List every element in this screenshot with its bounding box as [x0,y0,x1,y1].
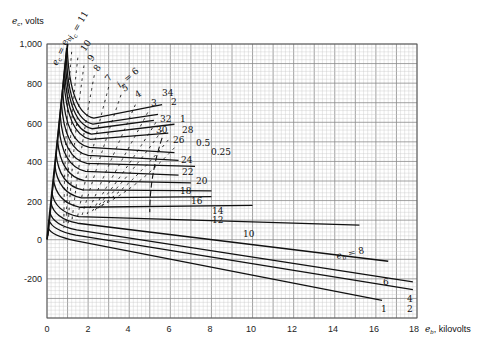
y-tick: 1,000 [19,39,42,49]
x-tick: 0 [44,324,49,334]
tube-characteristic-chart: 1,000 800 600 400 200 0 -200 0 2 4 6 8 1… [0,0,490,346]
ib-label: 26 [173,135,185,145]
ic-label: 0.25 [211,147,231,157]
ic-label: 1 [180,114,186,124]
ib-label: 10 [243,229,255,239]
ic-label: 5 [120,82,130,94]
curves [47,44,413,300]
x-tick: 8 [207,324,212,334]
y-tick: 600 [27,119,42,129]
x-tick: 6 [166,324,171,334]
y-tick: 800 [27,79,42,89]
x-tick: 18 [409,324,419,334]
ib-label: 32 [160,114,171,124]
x-tick: 10 [246,324,256,334]
y-tick: 200 [27,197,42,207]
ib-label: 6 [383,277,389,287]
ib-label: 30 [156,125,168,135]
ib-label: 24 [181,155,193,165]
x-tick: 12 [287,324,297,334]
ib-label: 4 [407,294,413,304]
ib-label: 28 [182,125,194,135]
ib-label: 22 [182,167,193,177]
ic-label: 0.5 [196,138,211,148]
y-tick: 400 [27,157,42,167]
y-tick: 0 [37,235,42,245]
y-axis-ticks: 1,000 800 600 400 200 0 -200 [19,39,42,284]
ic-label: 2 [171,97,177,107]
ic-label: 10 [78,38,93,53]
ic-label: 9 [85,52,97,63]
ic-label: 3 [151,98,157,108]
x-tick: 14 [328,324,338,334]
y-tick: -200 [24,274,42,284]
ib-label: 34 [162,88,174,98]
x-tick: 4 [125,324,130,334]
ib-label: 20 [196,176,208,186]
ib-label: 2 [407,304,413,314]
y-axis-label: ec, volts [12,16,44,27]
x-axis-ticks: 0 2 4 6 8 10 12 14 16 18 [44,324,419,334]
x-tick: 2 [85,324,90,334]
ic-11-label: ic = 11 [66,9,91,41]
ib-label: 16 [191,196,203,206]
x-tick: 16 [369,324,379,334]
x-axis-label: eb, kilovolts [425,324,471,335]
ib-label: 1 [381,304,387,314]
ec-eb-label: ec = eb [50,34,73,67]
ib-label: 18 [180,186,192,196]
ib-label: 12 [212,215,223,225]
